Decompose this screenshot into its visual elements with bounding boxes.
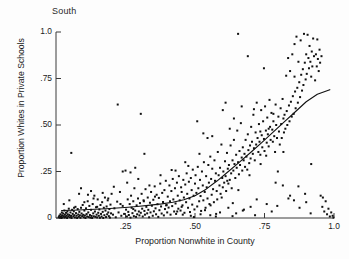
axis-tick-marks bbox=[56, 32, 334, 218]
axis-lines bbox=[56, 32, 334, 218]
plot-canvas bbox=[0, 0, 349, 259]
data-points-layer bbox=[58, 33, 335, 219]
scatter-plot-figure: South Proportion Whites in Private Schoo… bbox=[0, 0, 349, 259]
